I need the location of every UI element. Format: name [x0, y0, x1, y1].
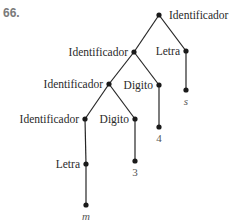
tree-node-label: Letra	[156, 45, 180, 57]
tree-node-dot	[82, 116, 87, 121]
tree-node-dot	[132, 116, 137, 121]
tree-node-dot	[132, 158, 137, 163]
tree-edge	[85, 119, 86, 164]
tree-node-label: Letra	[56, 158, 80, 170]
tree-labels: IdentificadorIdentificadorLetrasIdentifi…	[20, 9, 229, 222]
tree-node-dot	[183, 87, 188, 92]
tree-node-label: Identificador	[169, 9, 229, 21]
tree-node-label: 4	[156, 132, 162, 144]
tree-node-dot	[106, 81, 111, 86]
tree-node-label: Identificador	[44, 78, 104, 90]
tree-node-label: Identificador	[69, 46, 129, 58]
tree-node-dot	[156, 82, 161, 87]
parse-tree-diagram: IdentificadorIdentificadorLetrasIdentifi…	[0, 0, 232, 222]
tree-node-dot	[131, 49, 136, 54]
tree-nodes	[82, 12, 188, 207]
tree-node-dot	[83, 202, 88, 207]
tree-node-label: 3	[132, 166, 138, 178]
tree-node-label: s	[184, 95, 188, 107]
tree-node-dot	[83, 161, 88, 166]
tree-node-label: Digito	[100, 113, 130, 126]
tree-node-dot	[183, 48, 188, 53]
tree-node-dot	[156, 124, 161, 129]
tree-node-dot	[156, 12, 161, 17]
tree-node-label: m	[82, 210, 90, 222]
tree-node-label: Digito	[124, 79, 154, 92]
tree-node-label: Identificador	[20, 113, 80, 125]
